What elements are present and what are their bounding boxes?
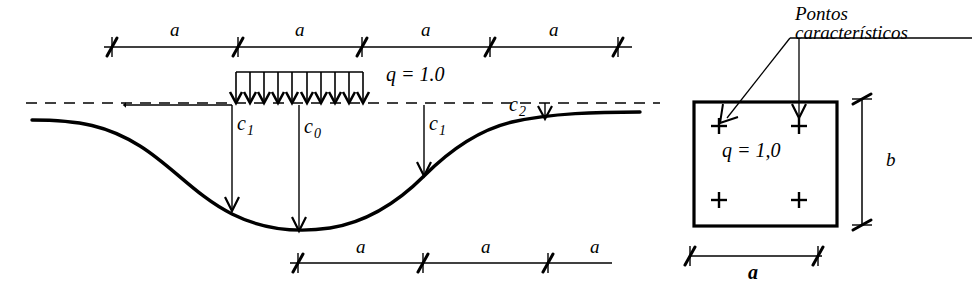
- bottom-dim-label-a-2: a: [481, 237, 491, 256]
- settlement-label-c1-left: c1: [237, 113, 254, 138]
- bottom-dim-label-a-1: a: [356, 237, 366, 256]
- engineering-figure: a a a a q = 1.0 c1 c0 c1 c2 a a a Pontos…: [0, 0, 978, 290]
- bottom-dim-label-a-3: a: [590, 237, 600, 256]
- distributed-load-block: [230, 72, 369, 103]
- top-dim-label-a-1: a: [170, 20, 180, 39]
- footing-outline: [694, 102, 837, 226]
- top-dimension-line: [104, 37, 632, 57]
- annotation-line-2: característicos: [795, 23, 908, 42]
- c2-sub: 2: [518, 104, 526, 119]
- c1-left-base: c: [237, 112, 246, 134]
- footing-load-label: q = 1,0: [722, 140, 781, 160]
- c0-base: c: [304, 115, 313, 137]
- annotation-line-1: Pontos: [795, 4, 908, 23]
- settlement-label-c0-center: c0: [304, 116, 321, 141]
- characteristic-points: [711, 118, 807, 208]
- c0-sub: 0: [313, 126, 321, 141]
- c1-right-sub: 1: [438, 123, 446, 138]
- c2-base: c: [509, 93, 518, 115]
- top-dim-label-a-3: a: [421, 20, 431, 39]
- dimension-b-label: b: [886, 150, 896, 169]
- settlement-label-c2-right: c2: [509, 94, 526, 119]
- dimension-b-line: [852, 94, 872, 230]
- settlement-curve: [32, 112, 640, 230]
- bottom-dimension-line: [290, 253, 612, 273]
- c1-left-sub: 1: [246, 123, 254, 138]
- dimension-a-label: a: [748, 262, 758, 282]
- top-dim-label-a-2: a: [295, 20, 305, 39]
- c1-right-base: c: [429, 112, 438, 134]
- settlement-label-c1-right: c1: [429, 113, 446, 138]
- top-dim-label-a-4: a: [549, 20, 559, 39]
- load-label: q = 1.0: [386, 64, 445, 84]
- annotation-leader-lines: [720, 38, 972, 123]
- characteristic-points-annotation: Pontos característicos: [795, 4, 908, 42]
